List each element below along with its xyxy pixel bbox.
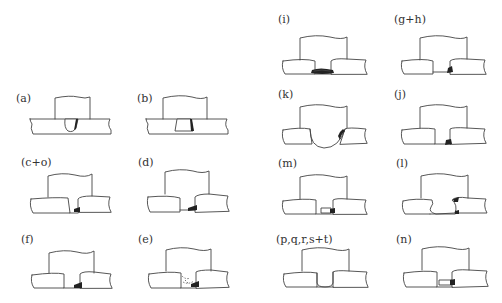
- punch-sheet-diagram-n: [0, 0, 502, 303]
